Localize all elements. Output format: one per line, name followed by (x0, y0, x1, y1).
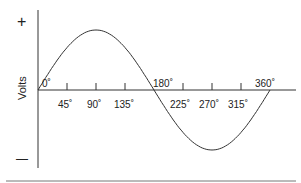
plus-marker: + (17, 13, 26, 30)
tick-label-225: 225˚ (170, 99, 190, 110)
tick-label-270: 270˚ (199, 99, 219, 110)
tick-label-45: 45˚ (58, 99, 72, 110)
volts-label: Volts (16, 76, 28, 100)
tick-label-315: 315˚ (228, 99, 248, 110)
tick-label-0: 0˚ (42, 78, 51, 89)
tick-label-180: 180˚ (153, 78, 173, 89)
tick-label-90: 90˚ (87, 99, 101, 110)
sine-wave-diagram: + — Volts 0˚ 45˚ 90˚ 135˚ 180˚ 225˚ 270˚… (0, 0, 301, 183)
tick-label-135: 135˚ (114, 99, 134, 110)
tick-label-360: 360˚ (255, 78, 275, 89)
minus-marker: — (16, 152, 28, 166)
